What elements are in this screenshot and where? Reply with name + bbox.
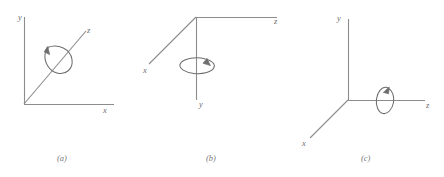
panel-c-y-axis-label: y (337, 14, 341, 23)
panel-a-rotation-arrow (44, 46, 72, 73)
panel-b-caption: (b) (206, 154, 216, 163)
panel-a-x-axis-label: x (103, 106, 107, 115)
panel-c-z-axis-label: z (426, 101, 429, 110)
panel-b-z-axis-label: z (274, 17, 277, 26)
panel-a-z-axis (24, 31, 86, 104)
panel-a-z-axis-label: z (87, 26, 90, 35)
diagram-vector-canvas (0, 0, 444, 177)
panel-b-x-axis (149, 17, 196, 64)
panel-b-axes (149, 17, 277, 100)
panel-b-rotation-arrowhead (203, 58, 210, 65)
panel-c-x-axis-label: x (302, 139, 306, 148)
figure-three-coordinate-systems: y x z (a) x z y (b) y z x (c) (0, 0, 444, 177)
panel-c-x-axis (310, 100, 348, 138)
panel-a-caption: (a) (57, 154, 67, 163)
panel-b-rotation-arrow (180, 58, 214, 74)
panel-b-rotation-loop (180, 58, 214, 74)
panel-c-axes (310, 19, 425, 138)
panel-c-rotation-arrowhead (383, 87, 389, 94)
panel-a-rotation-loop (45, 46, 72, 73)
panel-b-x-axis-label: x (143, 66, 147, 75)
panel-c-caption: (c) (361, 154, 370, 163)
panel-a-axes (24, 17, 114, 105)
panel-b-y-axis-label: y (199, 100, 203, 109)
panel-a-y-axis-label: y (18, 13, 22, 22)
